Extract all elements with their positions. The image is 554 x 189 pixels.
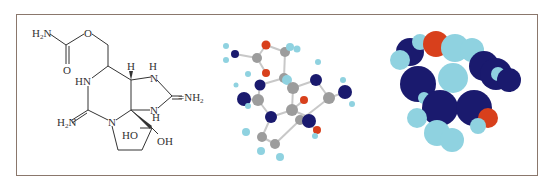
bond <box>152 128 158 134</box>
h2n-top-label: H2N <box>32 27 51 41</box>
space-filling-model <box>390 31 521 152</box>
bond <box>131 77 151 80</box>
structural-formula <box>50 34 182 150</box>
h-low-label: H <box>152 111 160 123</box>
bond <box>92 66 108 78</box>
bond <box>142 128 152 150</box>
ball-and-stick-model <box>223 41 355 162</box>
ho-label: HO <box>122 129 138 141</box>
bond <box>158 96 172 108</box>
atom-labels: H2N O O HN H H N =NH2 H2N N N H HO OH <box>32 27 204 147</box>
carbonyl-oxygen-label: O <box>63 64 71 76</box>
hn-label: HN <box>75 75 91 87</box>
imine-nh2-label: =NH2 <box>178 91 204 105</box>
bond <box>50 34 66 45</box>
h-wedge-label: H <box>127 60 135 72</box>
bond <box>92 34 108 45</box>
ether-oxygen-label: O <box>84 27 92 39</box>
bond <box>66 34 84 45</box>
n-top-label: N <box>150 72 158 84</box>
h-top-nh-label: H <box>149 60 157 72</box>
bond <box>157 80 172 96</box>
bond <box>116 110 131 120</box>
figure-canvas: H2N O O HN H H N =NH2 H2N N N H HO OH <box>0 0 554 189</box>
oh-label: OH <box>157 135 173 147</box>
wedge-bond <box>131 110 152 129</box>
h2n-low-label: H2N <box>57 116 76 130</box>
bond <box>88 110 108 120</box>
bond <box>112 126 118 150</box>
n-ring-label: N <box>108 116 116 128</box>
